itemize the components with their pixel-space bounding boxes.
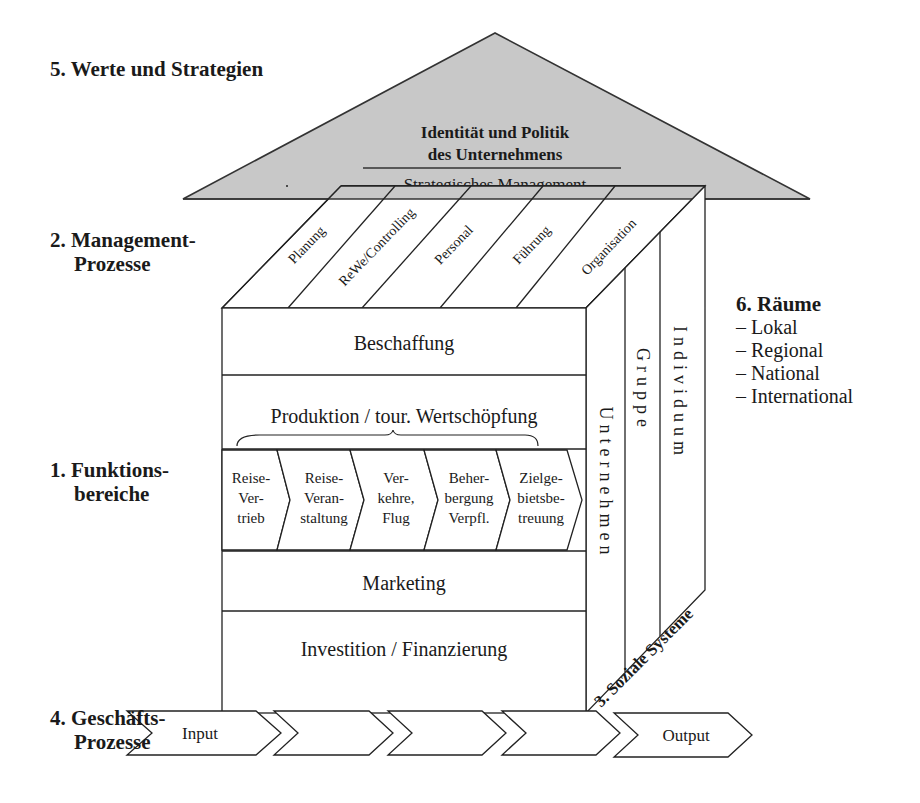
section-geschaeftsprozesse: 4. Geschäfts- Prozesse xyxy=(50,706,165,754)
raeume-title: Räume xyxy=(757,292,821,316)
chain-verkehre-l1: Ver- xyxy=(383,470,409,486)
section-management-prozesse: 2. Management- Prozesse xyxy=(50,228,196,276)
geschaeft-title-line1: Geschäfts- xyxy=(71,706,165,730)
process-output: Output xyxy=(662,726,710,745)
process-input: Input xyxy=(182,724,218,743)
chain-zielgebiet-l3: treuung xyxy=(518,510,564,526)
section-funktionsbereiche: 1. Funktions- bereiche xyxy=(50,458,169,506)
raeume-list: – Lokal – Regional – National – Internat… xyxy=(736,316,853,408)
raeume-heading: 6. Räume xyxy=(736,292,853,316)
raeume-item-national: – National xyxy=(736,362,853,385)
roof-identity-line2: des Unternehmens xyxy=(428,145,563,164)
management-title-line1: Management- xyxy=(71,228,196,252)
social-unternehmen: Unternehmen xyxy=(596,407,616,560)
werte-title: Werte und Strategien xyxy=(71,57,263,81)
function-investition: Investition / Finanzierung xyxy=(301,638,508,661)
chain-reisevertrieb-l3: trieb xyxy=(237,510,265,526)
chain-reisevertrieb-l1: Reise- xyxy=(232,470,270,486)
geschaeft-number: 4. xyxy=(50,706,66,730)
chain-beherbergung-l3: Verpfl. xyxy=(448,510,489,526)
function-marketing: Marketing xyxy=(362,572,445,595)
werte-number: 5. xyxy=(50,57,66,81)
chain-reiseveranstaltung-l2: Veran- xyxy=(304,490,344,506)
function-beschaffung: Beschaffung xyxy=(354,332,455,355)
chain-reiseveranstaltung-l3: staltung xyxy=(300,510,348,526)
business-process-chain xyxy=(127,711,752,757)
chain-reiseveranstaltung-l1: Reise- xyxy=(305,470,343,486)
section-werte-strategien: 5. Werte und Strategien xyxy=(50,57,263,81)
chain-zielgebiet-l2: bietsbe- xyxy=(517,490,564,506)
raeume-item-lokal: – Lokal xyxy=(736,316,853,339)
chain-verkehre-l2: kehre, xyxy=(377,490,414,506)
chain-verkehre-l3: Flug xyxy=(382,510,410,526)
chain-beherbergung-l2: bergung xyxy=(445,490,494,506)
funktion-title-line1: Funktions- xyxy=(71,458,169,482)
funktion-number: 1. xyxy=(50,458,66,482)
social-individuum: Individuum xyxy=(670,326,690,460)
chain-reisevertrieb-l2: Ver- xyxy=(238,490,264,506)
chain-beherbergung-l1: Beher- xyxy=(449,470,490,486)
roof-identity-line1: Identität und Politik xyxy=(421,123,570,142)
function-produktion: Produktion / tour. Wertschöpfung xyxy=(271,405,538,428)
raeume-number: 6. xyxy=(736,292,752,316)
section-raeume: 6. Räume – Lokal – Regional – National –… xyxy=(736,292,853,408)
management-title-line2: Prozesse xyxy=(50,252,196,276)
chain-zielgebiet-l1: Zielge- xyxy=(519,470,562,486)
geschaeft-title-line2: Prozesse xyxy=(50,730,165,754)
funktion-title-line2: bereiche xyxy=(50,482,169,506)
raeume-item-international: – International xyxy=(736,385,853,408)
management-number: 2. xyxy=(50,228,66,252)
raeume-item-regional: – Regional xyxy=(736,339,853,362)
social-gruppe: Gruppe xyxy=(633,348,653,432)
